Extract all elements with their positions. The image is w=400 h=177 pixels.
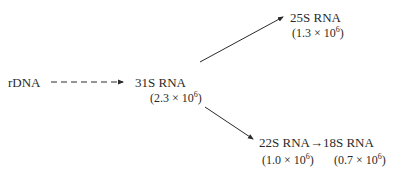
mw-value: (1.0 × 10 [262,153,306,167]
node-22s-rna-label: 22S RNA [259,135,310,150]
node-18s-rna-molecular-weight: (0.7 × 106) [334,153,386,166]
node-rdna-label: rDNA [8,76,41,89]
mw-close: ) [310,153,314,167]
node-18s-rna-label: 18S RNA [323,135,374,150]
mw-value: (0.7 × 10 [334,153,378,167]
mw-close: ) [382,153,386,167]
arrow-31s-to-22s [205,107,253,139]
arrow-31s-to-25s [200,17,283,62]
node-22s-rna-molecular-weight: (1.0 × 106) [262,153,314,166]
mw-value: (2.3 × 10 [150,91,194,105]
mw-value: (1.3 × 10 [292,26,336,40]
inline-arrow-22s-to-18s: → [310,135,323,150]
node-25s-rna-molecular-weight: (1.3 × 106) [292,26,344,39]
node-22s-to-18s-row: 22S RNA→18S RNA [259,136,374,149]
mw-close: ) [198,91,202,105]
mw-close: ) [340,26,344,40]
node-25s-rna-label: 25S RNA [290,11,341,24]
node-31s-rna-molecular-weight: (2.3 × 106) [150,91,202,104]
node-31s-rna-label: 31S RNA [135,76,186,89]
